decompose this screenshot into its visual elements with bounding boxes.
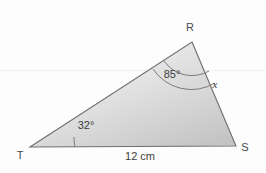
geometry-figure: R S T 85° 32° 12 cm x (0, 0, 266, 173)
angle-label-t: 32° (78, 119, 95, 131)
vertex-label-r: R (186, 21, 194, 33)
vertex-label-s: S (241, 141, 248, 153)
triangle-body (30, 42, 236, 147)
side-label-ts: 12 cm (125, 150, 155, 162)
side-label-rs: x (212, 78, 218, 90)
triangle-diagram-canvas: R S T 85° 32° 12 cm x (0, 0, 266, 173)
angle-label-r: 85° (164, 68, 181, 80)
vertex-label-t: T (17, 149, 24, 161)
